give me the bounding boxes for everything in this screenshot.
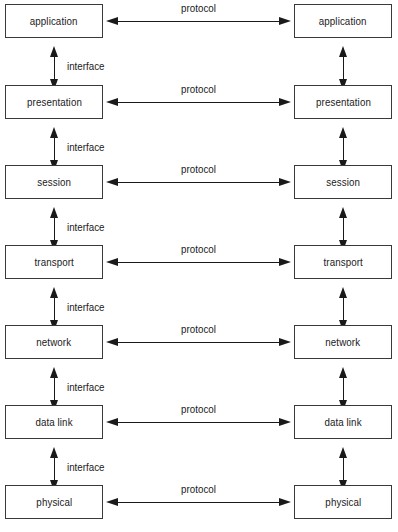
interface-line xyxy=(343,55,344,81)
osi-layer-diagram: application application protocol interfa… xyxy=(0,0,398,532)
protocol-connector-session: protocol xyxy=(103,165,294,199)
interface-label: interface xyxy=(67,141,104,153)
protocol-connector-presentation: protocol xyxy=(103,85,294,119)
protocol-line xyxy=(117,422,280,423)
layer-box-left-presentation: presentation xyxy=(5,85,103,119)
arrow-right-icon xyxy=(279,498,291,506)
interface-label: interface xyxy=(67,301,104,313)
protocol-line xyxy=(117,21,280,22)
protocol-connector-transport: protocol xyxy=(103,245,294,279)
protocol-label: protocol xyxy=(110,323,288,335)
protocol-connector-network: protocol xyxy=(103,325,294,359)
layer-label: session xyxy=(326,176,360,188)
layer-label: application xyxy=(30,15,78,27)
layer-box-left-physical: physical xyxy=(5,485,103,519)
protocol-line xyxy=(117,102,280,103)
layer-label: network xyxy=(37,336,72,348)
interface-line xyxy=(343,136,344,162)
layer-box-right-presentation: presentation xyxy=(294,85,392,119)
protocol-label: protocol xyxy=(110,483,288,495)
layer-box-left-data-link: data link xyxy=(5,405,103,439)
layer-label: transport xyxy=(34,256,73,268)
layer-label: physical xyxy=(325,496,361,508)
interface-label: interface xyxy=(67,381,104,393)
layer-label: session xyxy=(37,176,71,188)
interface-line xyxy=(54,55,55,81)
interface-line xyxy=(343,296,344,322)
protocol-label: protocol xyxy=(110,403,288,415)
arrow-right-icon xyxy=(279,418,291,426)
arrow-right-icon xyxy=(279,338,291,346)
layer-box-left-application: application xyxy=(5,4,103,38)
layer-box-right-network: network xyxy=(294,325,392,359)
layer-box-left-network: network xyxy=(5,325,103,359)
protocol-label: protocol xyxy=(110,163,288,175)
arrow-right-icon xyxy=(279,98,291,106)
interface-line xyxy=(54,456,55,482)
layer-label: application xyxy=(319,15,367,27)
layer-label: presentation xyxy=(27,96,82,108)
protocol-line xyxy=(117,502,280,503)
interface-line xyxy=(54,216,55,242)
interface-line xyxy=(54,296,55,322)
interface-line xyxy=(343,376,344,402)
protocol-label: protocol xyxy=(110,243,288,255)
layer-box-left-session: session xyxy=(5,165,103,199)
layer-box-left-transport: transport xyxy=(5,245,103,279)
layer-label: data link xyxy=(35,416,72,428)
layer-box-right-application: application xyxy=(294,4,392,38)
layer-label: transport xyxy=(323,256,362,268)
interface-line xyxy=(343,216,344,242)
interface-label: interface xyxy=(67,221,104,233)
arrow-right-icon xyxy=(279,178,291,186)
layer-box-right-data-link: data link xyxy=(294,405,392,439)
layer-box-right-session: session xyxy=(294,165,392,199)
protocol-line xyxy=(117,262,280,263)
layer-label: presentation xyxy=(316,96,371,108)
arrow-right-icon xyxy=(279,258,291,266)
protocol-connector-application: protocol xyxy=(103,4,294,38)
protocol-label: protocol xyxy=(110,83,288,95)
protocol-line xyxy=(117,342,280,343)
interface-label: interface xyxy=(67,461,104,473)
protocol-connector-physical: protocol xyxy=(103,485,294,519)
protocol-label: protocol xyxy=(110,2,288,14)
arrow-right-icon xyxy=(279,17,291,25)
layer-box-right-physical: physical xyxy=(294,485,392,519)
layer-label: network xyxy=(326,336,361,348)
interface-line xyxy=(54,136,55,162)
protocol-connector-data-link: protocol xyxy=(103,405,294,439)
interface-line xyxy=(343,456,344,482)
layer-box-right-transport: transport xyxy=(294,245,392,279)
protocol-line xyxy=(117,182,280,183)
interface-line xyxy=(54,376,55,402)
layer-label: physical xyxy=(36,496,72,508)
interface-label: interface xyxy=(67,60,104,72)
layer-label: data link xyxy=(324,416,361,428)
